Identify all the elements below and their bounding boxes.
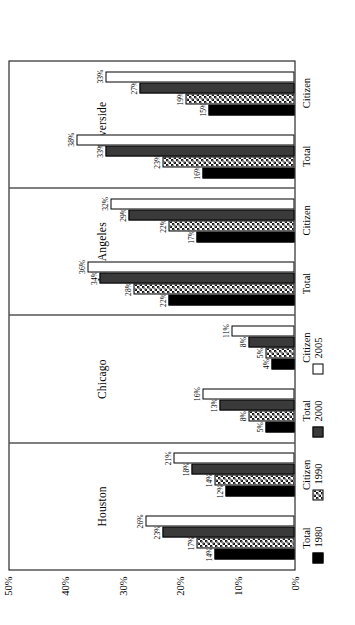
bar-column: 23% <box>9 156 294 167</box>
group-label: Citizen <box>300 64 311 122</box>
y-axis-tick-label: 20% <box>175 576 186 595</box>
bar-1990[interactable]: 5% <box>265 347 294 358</box>
bar-1980[interactable]: 22% <box>168 294 294 305</box>
bar-1990[interactable]: 19% <box>185 93 294 104</box>
bar-chart-figure: 0%10%20%30%40%50% Houston14%17%23%26%Tot… <box>0 0 355 625</box>
legend-item-1980[interactable]: 1980 <box>312 526 323 563</box>
bar-value-label: 11% <box>221 324 230 338</box>
legend-item-1990[interactable]: 1990 <box>312 463 323 500</box>
bar-column: 33% <box>9 71 294 82</box>
bar-column: 15% <box>9 104 294 115</box>
bar-2000[interactable]: 8% <box>248 336 294 347</box>
y-axis-tick-label: 0% <box>290 576 301 590</box>
bar-1980[interactable]: 12% <box>225 485 294 496</box>
bar-column: 22% <box>9 220 294 231</box>
bar-value-label: 17% <box>186 229 195 243</box>
bar-1980[interactable]: 14% <box>214 548 294 559</box>
legend-swatch-icon <box>312 489 323 500</box>
bar-value-label: 32% <box>100 196 109 210</box>
bar-1980[interactable]: 16% <box>202 167 294 178</box>
bar-column: 16% <box>9 388 294 399</box>
group-label: Citizen <box>300 445 311 503</box>
bar-2005[interactable]: 11% <box>231 325 294 336</box>
bar-1990[interactable]: 23% <box>162 156 294 167</box>
bar-2000[interactable]: 33% <box>105 145 294 156</box>
bar-column: 8% <box>9 410 294 421</box>
bar-1990[interactable]: 8% <box>248 410 294 421</box>
bar-2005[interactable]: 21% <box>173 452 294 463</box>
bar-value-label: 33% <box>95 143 104 157</box>
bar-value-label: 23% <box>152 154 161 168</box>
chart-legend: 1980199020002005 <box>312 337 323 563</box>
bar-column: 27% <box>9 82 294 93</box>
bar-1990[interactable]: 22% <box>168 220 294 231</box>
bar-column: 23% <box>9 526 294 537</box>
bar-value-label: 17% <box>186 536 195 550</box>
bar-2000[interactable]: 18% <box>191 463 294 474</box>
bar-2000[interactable]: 34% <box>99 272 294 283</box>
bar-1990[interactable]: 28% <box>133 283 294 294</box>
bar-column: 32% <box>9 198 294 209</box>
bar-value-label: 33% <box>95 69 104 83</box>
bar-1980[interactable]: 5% <box>265 421 294 432</box>
bar-column: 11% <box>9 325 294 336</box>
bar-1980[interactable]: 17% <box>196 231 294 242</box>
bar-value-label: 5% <box>255 422 264 432</box>
y-axis-tick-label: 30% <box>117 576 128 595</box>
bar-1990[interactable]: 17% <box>196 537 294 548</box>
bar-value-label: 29% <box>118 207 127 221</box>
chart-panel: Riverside16%23%33%38%Total15%19%27%33%Ci… <box>9 61 294 187</box>
bar-value-label: 22% <box>158 292 167 306</box>
bar-2000[interactable]: 23% <box>162 526 294 537</box>
bar-value-label: 22% <box>158 218 167 232</box>
legend-swatch-icon <box>312 363 323 374</box>
group-label: Total <box>300 508 311 566</box>
chart-panel: Los Angeles22%28%34%36%Total17%22%29%32%… <box>9 187 294 314</box>
group-label: Total <box>300 127 311 185</box>
bar-column: 5% <box>9 421 294 432</box>
bar-value-label: 16% <box>192 387 201 401</box>
bar-2005[interactable]: 16% <box>202 388 294 399</box>
legend-item-2000[interactable]: 2000 <box>312 400 323 437</box>
plot-area: Houston14%17%23%26%Total12%14%18%21%Citi… <box>8 60 295 570</box>
chart-panel: Chicago5%8%13%16%Total4%5%8%11%Citizen <box>9 315 294 442</box>
bar-value-label: 26% <box>135 514 144 528</box>
y-axis-tick-label: 50% <box>3 576 14 595</box>
bar-group: 12%14%18%21%Citizen <box>9 445 294 503</box>
bar-1980[interactable]: 15% <box>208 104 294 115</box>
group-label: Total <box>300 254 311 312</box>
bar-2005[interactable]: 38% <box>76 134 294 145</box>
bar-2005[interactable]: 33% <box>105 71 294 82</box>
bar-1980[interactable]: 4% <box>271 358 294 369</box>
legend-swatch-icon <box>312 552 323 563</box>
bar-value-label: 4% <box>261 359 270 369</box>
bar-value-label: 27% <box>129 80 138 94</box>
bar-2000[interactable]: 27% <box>139 82 294 93</box>
bar-1990[interactable]: 14% <box>214 474 294 485</box>
bar-group: 15%19%27%33%Citizen <box>9 64 294 122</box>
group-label: Citizen <box>300 191 311 249</box>
bar-value-label: 14% <box>204 473 213 487</box>
legend-item-2005[interactable]: 2005 <box>312 337 323 374</box>
bar-column: 26% <box>9 515 294 526</box>
bar-value-label: 38% <box>66 132 75 146</box>
bar-column: 14% <box>9 548 294 559</box>
bar-value-label: 13% <box>209 398 218 412</box>
bar-group: 14%17%23%26%Total <box>9 508 294 566</box>
bar-2005[interactable]: 26% <box>145 515 294 526</box>
bar-column: 28% <box>9 283 294 294</box>
bar-value-label: 21% <box>163 451 172 465</box>
bar-value-label: 5% <box>255 348 264 358</box>
bar-value-label: 28% <box>123 281 132 295</box>
bar-2005[interactable]: 32% <box>110 198 294 209</box>
bar-2005[interactable]: 36% <box>87 261 294 272</box>
bar-value-label: 12% <box>215 484 224 498</box>
bar-column: 22% <box>9 294 294 305</box>
bar-column: 38% <box>9 134 294 145</box>
y-axis-tick-label: 40% <box>60 576 71 595</box>
bar-2000[interactable]: 29% <box>128 209 294 220</box>
y-axis: 0%10%20%30%40%50% <box>8 570 295 625</box>
bar-column: 33% <box>9 145 294 156</box>
chart-rotation-wrapper: 0%10%20%30%40%50% Houston14%17%23%26%Tot… <box>0 0 355 625</box>
bar-2000[interactable]: 13% <box>219 399 294 410</box>
